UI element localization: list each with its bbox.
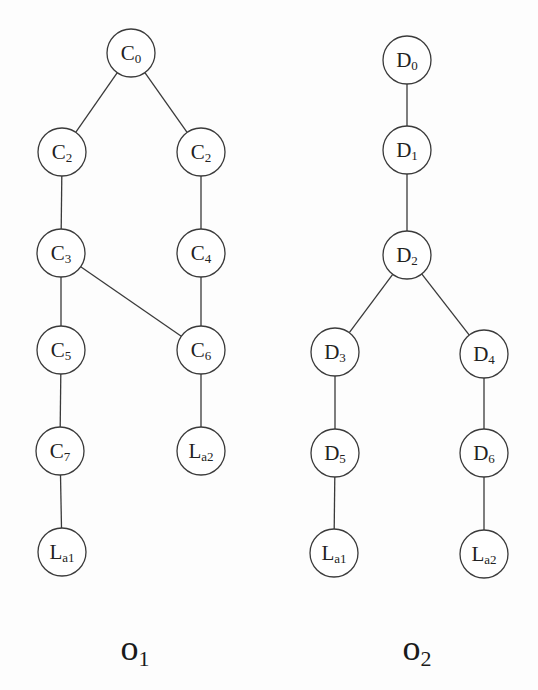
tree-title-o2: o2 bbox=[403, 628, 432, 671]
node-label-base: D bbox=[473, 441, 488, 465]
node-label-subscript: 0 bbox=[411, 58, 418, 73]
node-o1-c3: C3 bbox=[37, 229, 85, 277]
node-label-base: C bbox=[191, 241, 205, 265]
tree-title-subscript: 2 bbox=[421, 646, 432, 671]
node-label-base: L bbox=[49, 540, 62, 564]
node-label-base: L bbox=[321, 541, 334, 565]
tree-title-subscript: 1 bbox=[139, 646, 150, 671]
node-o1-la1: La1 bbox=[38, 528, 86, 576]
node-o1-c5: C5 bbox=[37, 326, 85, 374]
node-o1-c7: C7 bbox=[36, 427, 84, 475]
node-label-subscript: 4 bbox=[488, 352, 495, 367]
node-label-subscript: 2 bbox=[411, 253, 418, 268]
node-o1-la2: La2 bbox=[177, 427, 225, 475]
node-label-base: D bbox=[473, 342, 488, 366]
node-o2-d3: D3 bbox=[311, 328, 359, 376]
edge-o2-d2-d3 bbox=[349, 274, 392, 332]
nodes-layer: C0C2C2C3C4C5C6C7La2La1D0D1D2D3D4D5D6La1L… bbox=[36, 29, 508, 578]
node-label-subscript: 3 bbox=[339, 350, 346, 365]
edge-o1-c2a-c3 bbox=[61, 176, 62, 229]
node-label-subscript: 2 bbox=[205, 150, 212, 165]
node-label-base: D bbox=[396, 138, 411, 162]
node-label-subscript: 7 bbox=[64, 449, 71, 464]
node-label-base: C bbox=[191, 338, 205, 362]
diagram-canvas: C0C2C2C3C4C5C6C7La2La1D0D1D2D3D4D5D6La1L… bbox=[0, 0, 538, 690]
tree-title-base: o bbox=[121, 628, 139, 668]
node-label-subscript: 0 bbox=[135, 51, 142, 66]
node-o2-d5: D5 bbox=[311, 429, 359, 477]
node-label-subscript: 3 bbox=[65, 251, 72, 266]
node-o1-c0: C0 bbox=[107, 29, 155, 77]
node-label-subscript: 5 bbox=[65, 348, 72, 363]
edge-o2-d5-la1 bbox=[334, 477, 335, 529]
node-label-subscript: 1 bbox=[411, 148, 418, 163]
node-o2-la1: La1 bbox=[310, 529, 358, 577]
node-label-base: C bbox=[51, 338, 65, 362]
edge-o1-c3-c6 bbox=[81, 267, 182, 337]
node-o2-d1: D1 bbox=[383, 126, 431, 174]
node-o1-c2b: C2 bbox=[177, 128, 225, 176]
edge-o2-d2-d4 bbox=[422, 274, 470, 335]
edge-o1-c5-c7 bbox=[60, 374, 61, 427]
node-label-subscript: a2 bbox=[484, 552, 496, 567]
node-label-base: C bbox=[51, 241, 65, 265]
node-label-subscript: 6 bbox=[488, 451, 495, 466]
tree-title-base: o bbox=[403, 628, 421, 668]
node-label-subscript: a2 bbox=[201, 449, 213, 464]
node-label-base: C bbox=[52, 140, 66, 164]
node-label-base: D bbox=[324, 340, 339, 364]
node-o1-c2a: C2 bbox=[38, 128, 86, 176]
node-label-base: D bbox=[396, 48, 411, 72]
node-label-subscript: 2 bbox=[66, 150, 73, 165]
node-label-base: C bbox=[121, 41, 135, 65]
edge-o1-c0-c2a bbox=[76, 73, 118, 133]
node-o2-d6: D6 bbox=[460, 429, 508, 477]
node-label-subscript: a1 bbox=[334, 551, 346, 566]
tree-diagram: C0C2C2C3C4C5C6C7La2La1D0D1D2D3D4D5D6La1L… bbox=[0, 0, 538, 690]
edge-o1-c0-c2b bbox=[145, 73, 187, 133]
edge-o1-c7-la1 bbox=[61, 475, 62, 528]
node-o1-c4: C4 bbox=[177, 229, 225, 277]
node-o2-d2: D2 bbox=[383, 231, 431, 279]
node-label-subscript: 4 bbox=[205, 251, 212, 266]
tree-title-o1: o1 bbox=[121, 628, 150, 671]
node-o2-la2: La2 bbox=[460, 530, 508, 578]
node-label-base: D bbox=[324, 441, 339, 465]
node-o1-c6: C6 bbox=[177, 326, 225, 374]
node-label-subscript: 6 bbox=[205, 348, 212, 363]
node-label-base: C bbox=[50, 439, 64, 463]
node-o2-d0: D0 bbox=[383, 36, 431, 84]
node-o2-d4: D4 bbox=[460, 330, 508, 378]
node-label-base: C bbox=[191, 140, 205, 164]
node-label-base: D bbox=[396, 243, 411, 267]
titles-layer: o1o2 bbox=[121, 628, 432, 671]
node-label-subscript: a1 bbox=[62, 550, 74, 565]
node-label-subscript: 5 bbox=[339, 451, 346, 466]
node-label-base: L bbox=[471, 542, 484, 566]
node-label-base: L bbox=[188, 439, 201, 463]
